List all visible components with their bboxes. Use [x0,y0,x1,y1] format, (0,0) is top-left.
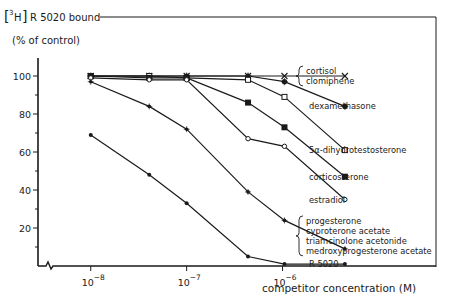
y-label-line2: (% of control) [12,35,80,46]
data-point-dot [89,133,93,137]
data-point-star-rays [88,79,94,85]
x-tick-label-exponent: −8 [94,273,105,282]
data-point-asterisk-rays [281,78,288,85]
y-label-isotope: H [14,12,22,23]
data-point-open-circle [147,78,151,82]
legend-label: clomiphene [306,76,354,86]
data-point-star-rays [146,103,152,109]
x-axis-label: competitor concentration (M) [262,282,416,294]
legend: cortisolclomiphenedexamethasone5α-dihydr… [296,66,432,269]
data-point-dot [185,201,189,205]
data-point-dot [147,173,151,177]
x-tick-label: 10 [178,277,190,288]
data-point-open-square [282,94,287,99]
legend-label: estradiol [309,195,345,205]
x-tick-label-exponent: −6 [286,273,297,282]
y-tick-label: 100 [13,71,31,82]
data-point-dot [282,262,286,266]
y-tick-label: 80 [19,109,31,120]
y-label-superscript: 3 [9,9,13,17]
y-label-line1: R 5020 bound [30,12,100,23]
legend-label: medroxyprogesterone acetate [306,246,432,256]
data-point-filled-square [281,124,287,130]
data-point-filled-square [245,100,251,106]
y-tick-label: 20 [19,223,31,234]
legend-label: corticosterone [309,172,369,182]
data-point-open-circle [246,137,250,141]
y-label-bracket-close: ] [22,8,27,24]
data-point-dot [343,262,347,266]
y-axis-label: [ 3 H ] R 5020 bound (% of control) [4,8,100,46]
legend-brace [296,216,303,256]
y-tick-label: 40 [19,185,31,196]
legend-label: triamcinolone acetonide [306,236,407,246]
legend-label: cyproterone acetate [306,226,390,236]
data-point-dot [246,255,250,259]
x-tick-label: 10 [82,277,94,288]
series-line [91,76,345,150]
legend-label: dexamethasone [309,101,376,111]
data-point-open-square [246,77,251,82]
chart: [ 3 H ] R 5020 bound (% of control) 2040… [0,0,453,296]
series-line [91,78,345,200]
legend-label: cortisol [306,66,336,76]
series-corticosterone [88,73,348,180]
series-estradiol [89,76,348,202]
y-axis: 20406080100 [13,58,38,266]
y-tick-label: 60 [19,147,31,158]
x-tick-label-exponent: −7 [190,273,201,282]
legend-label: 5α-dihydrotestosterone [309,145,406,155]
data-point-open-circle [282,144,286,148]
data-point-open-circle [184,78,188,82]
legend-label: progesterone [306,216,361,226]
x-axis-line-with-break [38,262,436,269]
legend-label: R 5020 [309,259,339,269]
